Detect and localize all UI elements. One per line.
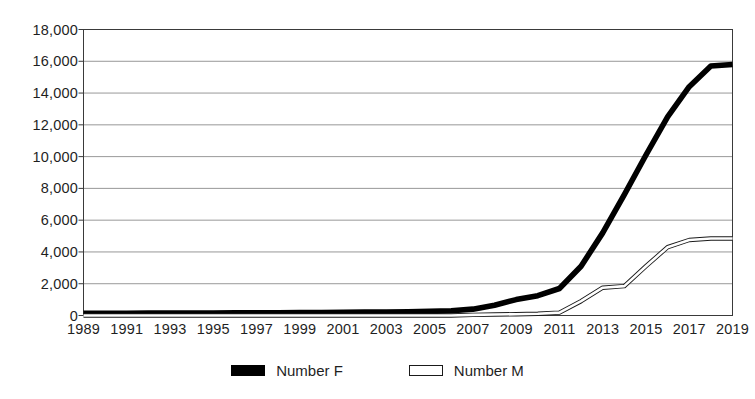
x-tick-label: 2001 — [327, 321, 360, 337]
x-tick-label: 2011 — [543, 321, 575, 337]
x-tick-label: 2007 — [456, 321, 489, 337]
legend-swatch-solid-icon — [231, 365, 265, 376]
x-tick-label: 2015 — [629, 321, 662, 337]
x-tick-label: 2013 — [586, 321, 619, 337]
x-tick-label: 2003 — [370, 321, 403, 337]
x-tick-label: 1989 — [67, 321, 100, 337]
legend-entry[interactable]: Number M — [409, 363, 524, 378]
x-tick-label: 2019 — [716, 321, 749, 337]
series-line-number-m — [84, 238, 733, 315]
x-axis: 1989199119931995199719992001200320052007… — [0, 321, 755, 343]
x-tick-label: 1991 — [110, 321, 143, 337]
chart-legend: Number FNumber M — [0, 355, 755, 385]
x-tick-label: 2005 — [413, 321, 446, 337]
x-tick-label: 1999 — [283, 321, 316, 337]
x-tick-label: 2009 — [500, 321, 533, 337]
legend-label: Number M — [454, 363, 524, 378]
x-tick-label: 2017 — [673, 321, 706, 337]
line-chart: 18,00016,00014,00012,00010,0008,0006,000… — [0, 0, 755, 399]
legend-label: Number F — [276, 363, 343, 378]
series-layer — [84, 64, 733, 315]
legend-swatch-hollow-icon — [409, 365, 443, 376]
x-tick-label: 1997 — [240, 321, 273, 337]
legend-entry[interactable]: Number F — [231, 363, 343, 378]
x-tick-label: 1993 — [154, 321, 187, 337]
x-tick-label: 1995 — [197, 321, 230, 337]
